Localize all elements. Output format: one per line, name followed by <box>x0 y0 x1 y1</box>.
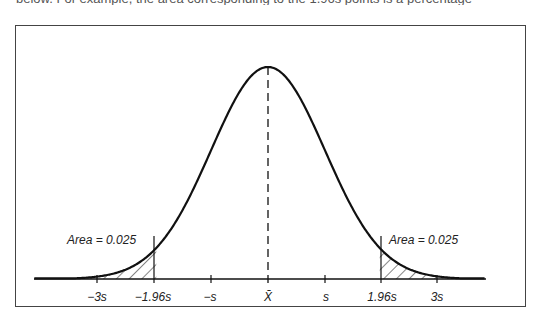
tick-label-plus-3s: 3s <box>431 290 444 304</box>
tick-label-minus-1.96s: −1.96s <box>135 290 171 304</box>
normal-distribution-chart: −3s −1.96s −s X̄ s 1.96s 3s Area = 0.025… <box>0 0 542 326</box>
tick-label-plus-s: s <box>323 290 329 304</box>
tick-label-plus-1.96s: 1.96s <box>367 290 396 304</box>
tick-label-minus-s: −s <box>203 290 216 304</box>
tick-label-minus-3s: −3s <box>87 290 107 304</box>
left-area-annotation: Area = 0.025 <box>66 233 136 247</box>
right-area-annotation: Area = 0.025 <box>388 233 458 247</box>
tick-label-mean: X̄ <box>263 290 273 304</box>
